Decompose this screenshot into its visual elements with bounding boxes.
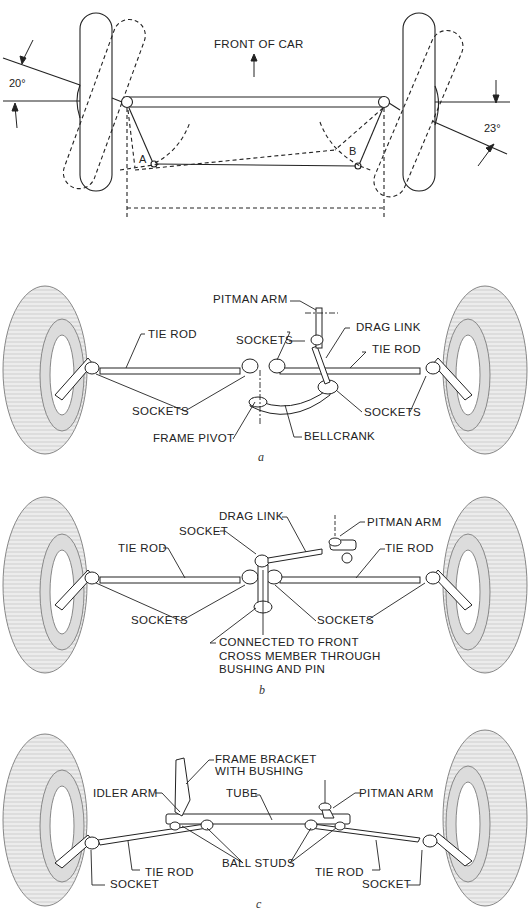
bellcrank-linkage-figure: PITMAN ARM DRAG LINK TIE ROD TIE ROD SOC…	[0, 240, 528, 470]
bellcrank-label: BELLCRANK	[304, 430, 375, 443]
tube-label: TUBE	[226, 787, 258, 800]
pitman-arm-label: PITMAN ARM	[367, 516, 442, 529]
frame-pivot-label: FRAME PIVOT	[153, 432, 234, 445]
left-angle-label: 20°	[9, 77, 26, 89]
drag-link-label: DRAG LINK	[219, 510, 284, 523]
connected-to-cross-member-label: CONNECTED TO FRONT CROSS MEMBER THROUGH …	[219, 636, 381, 677]
left-tire	[3, 286, 87, 454]
tie-rod-right-label: TIE ROD	[385, 542, 434, 555]
sockets-left-label: SOCKETS	[131, 614, 188, 627]
right-wheel-straight	[403, 13, 435, 191]
socket-label: SOCKET	[179, 525, 228, 538]
figure-a-caption: a	[258, 450, 264, 465]
left-wheel-turned	[59, 15, 150, 193]
tie-rod-right-label: TIE ROD	[315, 866, 364, 879]
parallelogram-linkage-drawing	[0, 700, 528, 914]
frame-bracket-label: FRAME BRACKET WITH BUSHING	[215, 753, 317, 777]
right-wheel-turned	[369, 26, 468, 202]
left-wheel-straight	[80, 13, 112, 191]
point-a-label: A	[139, 153, 146, 165]
pitman-arm-label: PITMAN ARM	[359, 787, 434, 800]
front-of-car-label: FRONT OF CAR	[214, 38, 304, 51]
parallelogram-linkage-figure: FRAME BRACKET WITH BUSHING IDLER ARM TUB…	[0, 700, 528, 914]
steering-geometry-figure: FRONT OF CAR 20° 23° A B	[0, 0, 528, 230]
right-tire	[443, 286, 527, 454]
bellcrank-linkage-drawing	[0, 240, 528, 470]
steering-geometry-drawing	[0, 0, 528, 230]
center-link-figure: DRAG LINK PITMAN ARM SOCKET TIE ROD TIE …	[0, 470, 528, 690]
figure-c-caption: c	[256, 897, 261, 912]
sockets-upper-label: SOCKETS	[236, 334, 293, 347]
right-angle-label: 23°	[484, 122, 501, 134]
pitman-arm-label: PITMAN ARM	[213, 293, 288, 306]
sockets-right-label: SOCKETS	[364, 406, 421, 419]
tie-rod-right-label: TIE ROD	[372, 343, 421, 356]
socket-right-label: SOCKET	[362, 878, 411, 891]
sockets-left-label: SOCKETS	[132, 405, 189, 418]
ball-studs-label: BALL STUDS	[222, 857, 295, 870]
socket-left-label: SOCKET	[110, 878, 159, 891]
sockets-right-label: SOCKETS	[317, 614, 374, 627]
tie-rod-left-label: TIE ROD	[148, 328, 197, 341]
tie-rod-left-label: TIE ROD	[118, 542, 167, 555]
drag-link-label: DRAG LINK	[356, 321, 421, 334]
figure-b-caption: b	[259, 683, 265, 698]
point-b-label: B	[349, 145, 356, 157]
idler-arm-label: IDLER ARM	[93, 787, 158, 800]
